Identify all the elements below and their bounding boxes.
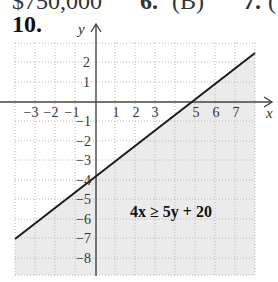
svg-text:2: 2 <box>83 55 90 70</box>
svg-text:2: 2 <box>133 105 140 120</box>
svg-text:−4: −4 <box>76 173 91 188</box>
y-axis-label: y <box>76 21 85 37</box>
svg-text:−8: −8 <box>76 251 91 266</box>
svg-text:−1: −1 <box>76 114 91 129</box>
svg-text:−3: −3 <box>24 105 39 120</box>
svg-text:−2: −2 <box>76 134 91 149</box>
svg-text:1: 1 <box>113 105 120 120</box>
svg-text:−6: −6 <box>76 212 91 227</box>
y-tick-labels: 2 1 −1 −2 −3 −4 −5 −6 −7 −8 <box>76 55 91 266</box>
svg-text:−3: −3 <box>76 153 91 168</box>
svg-text:−7: −7 <box>76 231 91 246</box>
inequality-graph: x y −3 −2 −1 1 2 3 5 6 7 2 1 −1 −2 −3 −4… <box>0 0 278 282</box>
svg-text:−5: −5 <box>76 192 91 207</box>
svg-text:1: 1 <box>83 75 90 90</box>
inequality-label: 4x ≥ 5y + 20 <box>130 203 212 221</box>
svg-text:−2: −2 <box>44 105 59 120</box>
svg-text:3: 3 <box>152 105 159 120</box>
svg-text:7: 7 <box>233 105 240 120</box>
svg-text:5: 5 <box>193 105 200 120</box>
x-axis-label: x <box>265 105 273 121</box>
svg-text:6: 6 <box>213 105 220 120</box>
